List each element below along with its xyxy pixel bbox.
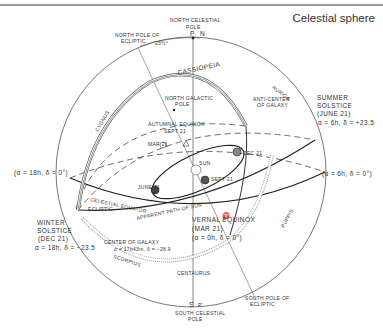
svg-text:SEPT 21: SEPT 21 bbox=[164, 128, 186, 134]
dec21-label: DEC 21 bbox=[243, 150, 262, 156]
svg-text:(JUNE 21): (JUNE 21) bbox=[317, 110, 351, 118]
puppis-label: PUPPIS bbox=[280, 208, 295, 229]
south-s-label: S bbox=[189, 300, 195, 309]
sept21-label: SEPT 21 bbox=[211, 176, 233, 182]
winter-solstice-label: WINTER bbox=[37, 219, 65, 226]
svg-text:(DEC 21): (DEC 21) bbox=[38, 235, 68, 243]
earth-sept21-icon bbox=[201, 176, 209, 184]
svg-text:P': P' bbox=[198, 302, 203, 308]
svg-text:OF GALAXY: OF GALAXY bbox=[257, 102, 288, 108]
autumnal-equinox-marker bbox=[183, 141, 189, 146]
left-equator-coords: (α = 18h, δ = 0°) bbox=[14, 169, 68, 177]
svg-text:α = 6h, δ = +23.5: α = 6h, δ = +23.5 bbox=[318, 119, 374, 126]
sphere-outline bbox=[56, 37, 326, 307]
sun-icon bbox=[191, 165, 201, 175]
summer-solstice-label: SUMMER bbox=[317, 94, 348, 101]
svg-text:POLE: POLE bbox=[175, 101, 190, 107]
svg-text:α = 18h, δ = −23.5: α = 18h, δ = −23.5 bbox=[35, 244, 95, 251]
svg-text:SOLSTICE: SOLSTICE bbox=[37, 227, 73, 234]
autumnal-equinox-label: AUTUMNAL EQUINOX bbox=[148, 121, 205, 127]
svg-text:(MAR 21): (MAR 21) bbox=[192, 225, 223, 233]
sun-label: SUN bbox=[199, 160, 211, 166]
center-galaxy-label: CENTER OF GALAXY bbox=[104, 239, 159, 245]
cassiopeia-label: CASSIOPEIA bbox=[177, 60, 221, 76]
svg-text:N: N bbox=[200, 30, 205, 37]
svg-text:(α = 0h, δ = 0°): (α = 0h, δ = 0°) bbox=[192, 234, 242, 242]
right-equator-coords: (α = 6h, δ = 0°) bbox=[322, 170, 372, 178]
north-p-label: P bbox=[190, 30, 195, 37]
obliquity-label: 23½° bbox=[155, 40, 168, 46]
earth-dec21-icon bbox=[233, 148, 241, 156]
svg-text:SOLSTICE: SOLSTICE bbox=[317, 102, 353, 109]
svg-text:ECLIPTIC: ECLIPTIC bbox=[250, 301, 275, 307]
centaurus-label: CENTAURUS bbox=[177, 270, 211, 276]
svg-text:POLE: POLE bbox=[188, 316, 203, 322]
svg-text:α = 17h43m, δ = −28.9: α = 17h43m, δ = −28.9 bbox=[114, 246, 171, 252]
svg-text:ECLIPTIC: ECLIPTIC bbox=[121, 38, 146, 44]
north-celestial-label: NORTH CELESTIAL bbox=[170, 17, 221, 23]
north-galactic-pole-marker bbox=[173, 109, 175, 111]
june21-label: JUNE 21 bbox=[138, 184, 160, 190]
obliquity-arc bbox=[140, 38, 200, 46]
north-pole-marker bbox=[192, 37, 195, 40]
celestial-sphere-diagram: NORTH CELESTIAL POLE P N NORTH POLE OF E… bbox=[0, 0, 383, 328]
ecliptic-label: ECLIPTIC bbox=[88, 206, 113, 212]
mar21-label: MAR 21 bbox=[148, 141, 168, 147]
vernal-equinox-label: VERNAL EQUINOX bbox=[192, 216, 255, 224]
